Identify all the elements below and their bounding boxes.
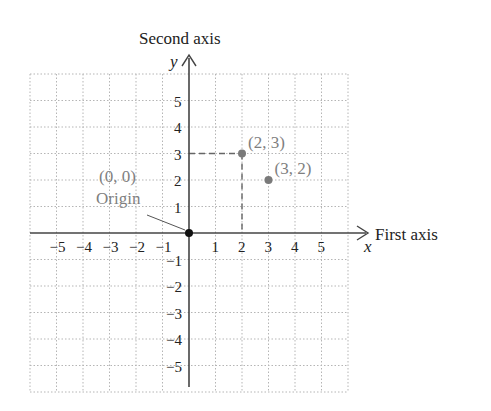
coordinate-plane: Second axis y First axis x 12345−5−4−3−2…	[0, 0, 491, 411]
data-point	[238, 150, 246, 158]
origin-leader-line	[147, 215, 185, 230]
x-tick-label: 3	[265, 239, 273, 255]
y-axis-title: Second axis	[139, 29, 221, 48]
y-tick-label: −4	[166, 332, 182, 348]
y-tick-label: 2	[174, 173, 182, 189]
origin-coords-label: (0, 0)	[99, 167, 136, 186]
y-symbol: y	[168, 52, 178, 71]
y-tick-label: 1	[174, 200, 182, 216]
x-tick-label: 4	[291, 239, 299, 255]
x-tick-label: 2	[238, 239, 246, 255]
y-tick-label: 3	[174, 147, 182, 163]
origin-name-label: Origin	[96, 189, 141, 208]
x-tick-label: 1	[212, 239, 220, 255]
y-tick-label: 4	[174, 120, 182, 136]
point-label: (2, 3)	[248, 133, 285, 152]
x-tick-label: −2	[129, 239, 145, 255]
x-symbol: x	[363, 237, 372, 256]
x-tick-label: 5	[318, 239, 326, 255]
y-tick-label: 5	[174, 94, 182, 110]
y-tick-label: −1	[166, 253, 182, 269]
y-tick-label: −3	[166, 306, 182, 322]
x-tick-label: −3	[103, 239, 119, 255]
x-tick-label: −5	[50, 239, 66, 255]
x-tick-label: −4	[76, 239, 92, 255]
origin-point	[185, 229, 193, 237]
x-axis-title: First axis	[375, 225, 438, 244]
points: (2, 3)(3, 2)	[238, 133, 311, 185]
point-label: (3, 2)	[275, 159, 312, 178]
data-point	[265, 176, 273, 184]
y-tick-label: −5	[166, 359, 182, 375]
y-tick-label: −2	[166, 279, 182, 295]
